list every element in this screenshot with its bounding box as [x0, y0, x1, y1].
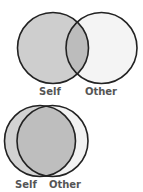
other-label: Other	[85, 86, 117, 97]
venn-diagram-partial-overlap: Self Other	[18, 13, 138, 98]
self-label: Self	[15, 179, 37, 190]
venn-diagram-large-overlap: Self Other	[5, 106, 89, 191]
self-label: Self	[39, 86, 61, 97]
venn-diagrams: Self Other Self Other	[0, 0, 143, 192]
other-label: Other	[49, 179, 81, 190]
